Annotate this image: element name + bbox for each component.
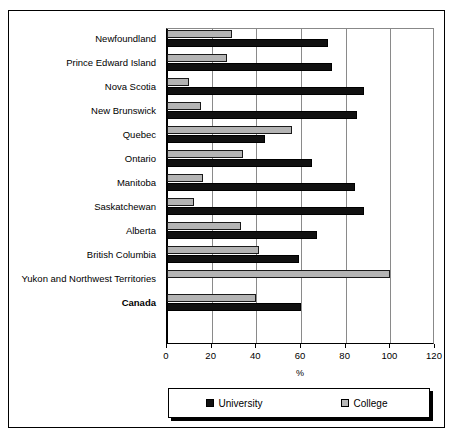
bar-university	[167, 159, 312, 167]
x-tick-label: 120	[414, 350, 454, 361]
bar-college	[167, 150, 243, 158]
x-tick	[434, 344, 435, 348]
chart-figure: NewfoundlandPrince Edward IslandNova Sco…	[0, 0, 455, 441]
bar-college	[167, 294, 256, 302]
bar-group	[166, 173, 434, 197]
x-tick-label: 0	[146, 350, 186, 361]
category-label: Prince Edward Island	[0, 57, 156, 68]
bar-university	[167, 63, 332, 71]
category-label: Saskatchewan	[0, 201, 156, 212]
bar-university	[167, 87, 364, 95]
legend-label: University	[219, 398, 263, 409]
x-tick	[255, 344, 256, 348]
x-tick-label: 60	[280, 350, 320, 361]
bar-college	[167, 30, 232, 38]
x-axis-title: %	[166, 368, 434, 378]
category-label: Manitoba	[0, 177, 156, 188]
bar-university	[167, 183, 355, 191]
category-axis-labels: NewfoundlandPrince Edward IslandNova Sco…	[0, 28, 162, 344]
category-label: Yukon and Northwest Territories	[0, 273, 156, 284]
x-tick	[300, 344, 301, 348]
bar-group	[166, 149, 434, 173]
x-tick-label: 80	[325, 350, 365, 361]
legend-label: College	[354, 398, 388, 409]
bar-group	[166, 29, 434, 53]
bar-university	[167, 111, 357, 119]
bar-college	[167, 270, 390, 278]
bar-group	[166, 269, 434, 293]
bar-group	[166, 293, 434, 317]
bar-group	[166, 125, 434, 149]
category-label: Quebec	[0, 129, 156, 140]
category-label: British Columbia	[0, 249, 156, 260]
bar-university	[167, 303, 301, 311]
bar-college	[167, 54, 227, 62]
category-label: Canada	[0, 297, 156, 308]
bar-college	[167, 174, 203, 182]
x-tick	[389, 344, 390, 348]
bar-college	[167, 246, 259, 254]
bar-university	[167, 39, 328, 47]
bar-university	[167, 255, 299, 263]
bar-university	[167, 135, 265, 143]
bar-college	[167, 222, 241, 230]
category-label: Alberta	[0, 225, 156, 236]
bar-group	[166, 53, 434, 77]
bar-college	[167, 126, 292, 134]
x-tick-label: 40	[235, 350, 275, 361]
bar-group	[166, 221, 434, 245]
legend-swatch-college-icon	[341, 399, 349, 407]
x-tick	[211, 344, 212, 348]
legend-swatch-university-icon	[206, 399, 214, 407]
bar-university	[167, 231, 317, 239]
x-tick	[345, 344, 346, 348]
x-tick-label: 20	[191, 350, 231, 361]
x-axis-ticks	[166, 344, 434, 349]
bar-group	[166, 245, 434, 269]
category-label: New Brunswick	[0, 105, 156, 116]
bar-college	[167, 198, 194, 206]
legend-item-university: University	[169, 398, 299, 409]
bar-group	[166, 197, 434, 221]
x-tick-label: 100	[369, 350, 409, 361]
bars-layer	[166, 28, 434, 344]
bar-university	[167, 207, 364, 215]
bar-college	[167, 102, 201, 110]
bar-group	[166, 77, 434, 101]
category-label: Nova Scotia	[0, 81, 156, 92]
category-label: Ontario	[0, 153, 156, 164]
chart-legend: UniversityCollege	[168, 388, 430, 418]
bar-college	[167, 78, 189, 86]
bar-group	[166, 101, 434, 125]
category-label: Newfoundland	[0, 33, 156, 44]
x-tick	[166, 344, 167, 348]
legend-item-college: College	[299, 398, 429, 409]
